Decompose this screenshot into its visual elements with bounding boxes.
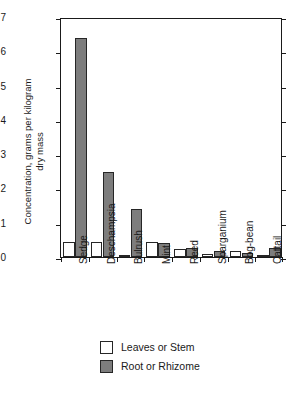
x-axis-tick bbox=[255, 257, 256, 262]
x-axis-label-deschampsia: Deschampsia bbox=[106, 203, 117, 264]
bar-root-or-rhizome bbox=[75, 38, 87, 257]
chart-legend: Leaves or Stem Root or Rhizome bbox=[100, 341, 200, 379]
x-axis-label-cattail: Cattail bbox=[272, 236, 283, 264]
x-axis-label-sparganium: Sparganium bbox=[217, 210, 228, 264]
x-axis-tick bbox=[172, 257, 173, 262]
x-axis-tick bbox=[61, 257, 62, 262]
y-axis-tick-label: 4 bbox=[0, 116, 6, 126]
legend-item-leaves: Leaves or Stem bbox=[100, 341, 200, 354]
y-axis-tick-label: 7 bbox=[0, 13, 6, 23]
bar-leaves-or-stem bbox=[202, 254, 214, 257]
legend-swatch-leaves bbox=[100, 341, 113, 354]
bar-leaves-or-stem bbox=[230, 251, 242, 257]
bar-leaves-or-stem bbox=[119, 255, 131, 257]
y-axis-tick-label: 2 bbox=[0, 184, 6, 194]
bar-group bbox=[255, 19, 283, 257]
y-axis-tick-label: 3 bbox=[0, 150, 6, 160]
legend-item-root: Root or Rhizome bbox=[100, 360, 200, 373]
y-axis-tick-label: 1 bbox=[0, 219, 6, 229]
x-axis-label-reed: Reed bbox=[189, 240, 200, 264]
y-axis-tick-label: 6 bbox=[0, 47, 6, 57]
bar-leaves-or-stem bbox=[63, 242, 75, 257]
x-axis-label-mint: Mint bbox=[161, 245, 172, 264]
y-axis-tick-label: 0 bbox=[0, 253, 6, 263]
bar-group bbox=[172, 19, 200, 257]
bar-leaves-or-stem bbox=[146, 242, 158, 257]
y-axis-title: Concentration, grams per kilogram dry ma… bbox=[22, 37, 45, 267]
y-axis-tick-label: 5 bbox=[0, 82, 6, 92]
x-axis-label-sedge: Sedge bbox=[78, 235, 89, 264]
bar-group bbox=[61, 19, 89, 257]
x-axis-label-bulrush: Bulrush bbox=[133, 230, 144, 264]
legend-label-root: Root or Rhizome bbox=[121, 360, 200, 373]
legend-label-leaves: Leaves or Stem bbox=[121, 341, 195, 354]
bar-group bbox=[117, 19, 145, 257]
bar-leaves-or-stem bbox=[257, 255, 269, 257]
x-axis-tick bbox=[144, 257, 145, 262]
legend-swatch-root bbox=[100, 360, 113, 373]
x-axis-label-bog-bean: Bog-bean bbox=[244, 221, 255, 264]
bar-leaves-or-stem bbox=[91, 242, 103, 257]
bar-group bbox=[144, 19, 172, 257]
bar-leaves-or-stem bbox=[174, 249, 186, 257]
bar-chart-figure: Concentration, grams per kilogram dry ma… bbox=[0, 0, 295, 401]
